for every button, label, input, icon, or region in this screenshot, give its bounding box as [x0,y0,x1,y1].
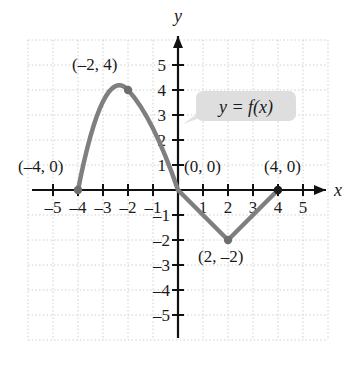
point-label-4-0: (4, 0) [264,157,301,176]
callout-label: y = f(x) [217,97,273,118]
point-label-neg2-4: (–2, 4) [72,55,117,74]
y-axis-label: y [172,6,182,26]
xtick-label-5: 5 [299,198,308,217]
ytick-label-neg4: –4 [152,281,171,300]
point-label-2-neg2: (2, –2) [198,247,243,266]
xtick-label-neg5: –5 [44,198,62,217]
graph-figure: –5 –4 –3 –2 –1 1 2 3 4 5 5 4 3 2 1 –1 –2… [0,0,358,367]
ytick-label-4: 4 [158,81,167,100]
point-marker-4-0 [274,186,282,194]
point-marker-2-neg2 [224,236,232,244]
xtick-label-2: 2 [224,198,233,217]
ytick-label-neg5: –5 [152,306,170,325]
coordinate-plane-svg: –5 –4 –3 –2 –1 1 2 3 4 5 5 4 3 2 1 –1 –2… [0,0,358,367]
xtick-label-neg3: –3 [94,198,112,217]
x-axis-label: x [333,180,342,200]
xtick-label-neg4: –4 [69,198,88,217]
point-marker-neg4-0 [74,186,82,194]
ytick-label-3: 3 [158,106,167,125]
ytick-label-neg3: –3 [152,256,170,275]
point-label-neg4-0: (–4, 0) [18,157,63,176]
point-label-0-0: (0, 0) [184,157,221,176]
ytick-label-5: 5 [158,56,167,75]
ytick-label-neg2: –2 [152,231,170,250]
xtick-label-neg2: –2 [119,198,137,217]
function-callout: y = f(x) [183,91,296,124]
ytick-label-neg1: –1 [152,206,170,225]
xtick-label-4: 4 [274,198,283,217]
point-marker-neg2-4 [124,86,132,94]
